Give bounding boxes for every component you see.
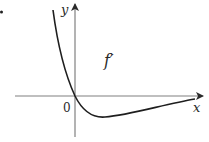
f-prime-curve [53,10,195,117]
y-axis-label: y [60,2,69,17]
function-graph: y x 0 f′ [0,0,209,142]
origin-label: 0 [63,101,71,115]
x-axis-label: x [193,100,201,115]
curve-label: f′ [103,51,114,70]
problem-marker-dot [0,11,3,14]
